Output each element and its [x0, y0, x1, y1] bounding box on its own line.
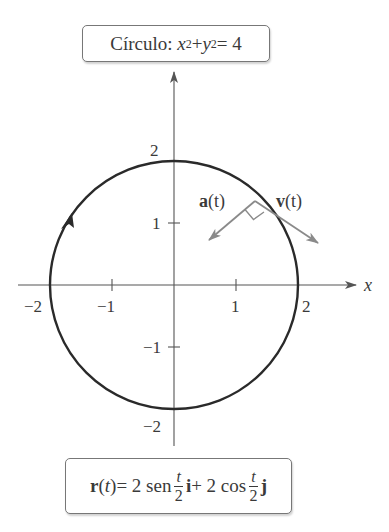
fraction-t-over-2: t2 — [174, 469, 182, 504]
x-tick-label: 2 — [302, 297, 311, 316]
y-tick-label: 2 — [150, 141, 159, 160]
formula-eq: = 2 sen — [116, 475, 171, 497]
title-plus: + — [192, 33, 203, 55]
x-tick-label: −2 — [24, 297, 42, 316]
y-tick-label: −2 — [143, 417, 161, 436]
circle-equation-label: Círculo: x2 + y2 = 4 — [82, 25, 270, 62]
x-axis-label: x — [363, 275, 372, 295]
title-y: y — [202, 33, 210, 55]
title-rhs: = 4 — [217, 33, 242, 55]
y-tick-label: 1 — [152, 214, 161, 233]
acceleration-label: a(t) — [199, 191, 225, 212]
x-tick-label: 1 — [231, 297, 240, 316]
position-function-label: r(t) = 2 sen t2i + 2 cos t2j — [65, 458, 292, 514]
title-x: x — [177, 33, 185, 55]
x-tick-label: −1 — [97, 297, 115, 316]
fraction-t-over-2: t2 — [249, 469, 257, 504]
right-angle-mark — [245, 210, 264, 220]
title-prefix: Círculo: — [110, 33, 172, 55]
formula-r: r — [90, 475, 98, 497]
orientation-arrow-icon — [61, 213, 74, 229]
velocity-label: v(t) — [276, 191, 302, 212]
y-tick-label: −1 — [143, 338, 161, 357]
circle-diagram: x y −2 −1 1 2 2 1 −1 −2 a(t) v(t) — [0, 0, 389, 532]
formula-mid: + 2 cos — [191, 475, 246, 497]
formula-j: j — [261, 475, 267, 497]
